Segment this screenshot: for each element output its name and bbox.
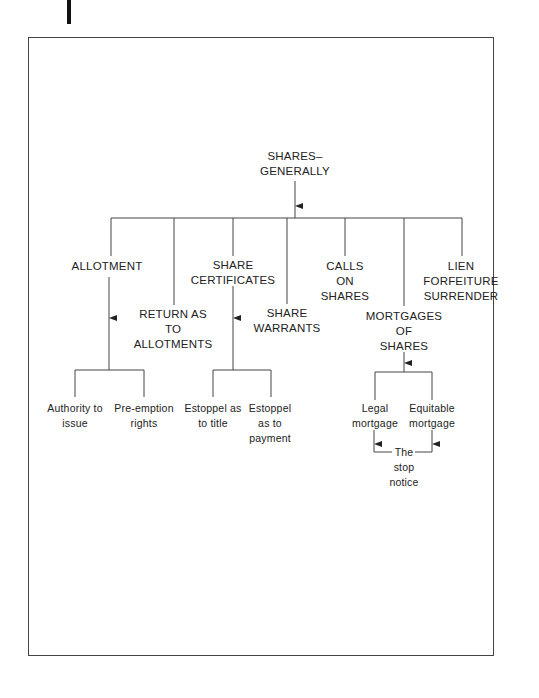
root-node-shares-generally: SHARES– GENERALLY [260, 149, 330, 179]
node-estoppel-as-to-title: Estoppel as to title [184, 401, 241, 431]
node-equitable-mortgage: Equitable mortgage [409, 401, 455, 431]
node-pre-emption-rights: Pre-emption rights [114, 401, 173, 431]
connector-lines [0, 0, 539, 698]
node-legal-mortgage: Legal mortgage [352, 401, 398, 431]
node-return-as-to-allotments: RETURN AS TO ALLOTMENTS [134, 307, 213, 352]
node-allotment: ALLOTMENT [72, 259, 143, 274]
node-share-warrants: SHARE WARRANTS [254, 306, 321, 336]
node-calls-on-shares: CALLS ON SHARES [321, 259, 370, 304]
node-mortgages-of-shares: MORTGAGES OF SHARES [366, 309, 442, 354]
node-authority-to-issue: Authority to issue [47, 401, 103, 431]
node-lien-forfeiture-surrender: LIEN FORFEITURE SURRENDER [423, 259, 498, 304]
node-share-certificates: SHARE CERTIFICATES [191, 258, 275, 288]
node-estoppel-as-to-payment: Estoppel as to payment [249, 401, 291, 446]
node-the-stop-notice: The stop notice [389, 445, 418, 490]
